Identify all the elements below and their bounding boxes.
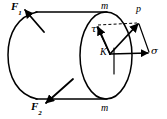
- label-normal-stress-sigma: σ: [151, 46, 158, 56]
- mechanics-figure: F1 F2 m m τ σ p K: [0, 0, 167, 119]
- figure-canvas: [0, 0, 167, 119]
- parallelogram-right-side: [139, 24, 149, 52]
- label-shear-stress-tau: τ: [91, 24, 97, 34]
- label-section-m-top: m: [101, 1, 108, 11]
- label-point-k: K: [100, 47, 107, 57]
- label-force-f2: F2: [31, 101, 42, 115]
- label-resultant-stress-p: p: [136, 4, 141, 14]
- label-force-f1: F1: [11, 1, 22, 15]
- label-section-m-bottom: m: [101, 103, 108, 113]
- cylinder-left-ellipse-arc: [8, 12, 37, 99]
- parallelogram-dashed-side: [98, 23, 137, 25]
- vector-sigma: [110, 53, 148, 54]
